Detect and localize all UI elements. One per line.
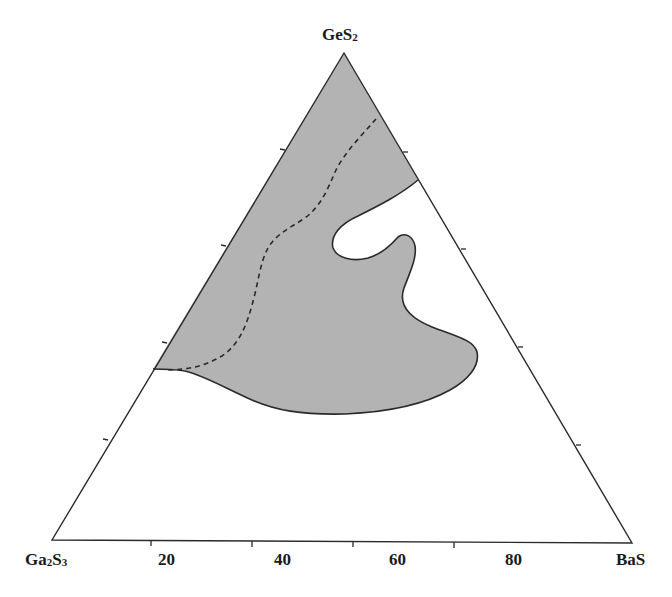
left-label-sub1: 2	[47, 556, 53, 568]
vertex-label-gés2: GeS2	[322, 26, 358, 43]
tick-label-40: 40	[274, 551, 291, 568]
right-axis-ticks	[403, 152, 581, 445]
tick-label-20: 20	[158, 551, 175, 568]
vertex-label-ga2s3: Ga2S3	[25, 551, 67, 568]
vertex-label-bas: BaS	[616, 551, 645, 568]
apex-label-sub: 2	[352, 31, 358, 43]
tick-label-60: 60	[389, 551, 406, 568]
left-label-b: S	[52, 550, 61, 569]
left-label-sub2: 3	[62, 556, 68, 568]
ternary-diagram	[0, 0, 672, 597]
apex-label-main: GeS	[322, 25, 352, 44]
glass-forming-region	[153, 53, 477, 414]
right-label: BaS	[616, 550, 645, 569]
tick-label-80: 80	[505, 551, 522, 568]
left-label-a: Ga	[25, 550, 47, 569]
